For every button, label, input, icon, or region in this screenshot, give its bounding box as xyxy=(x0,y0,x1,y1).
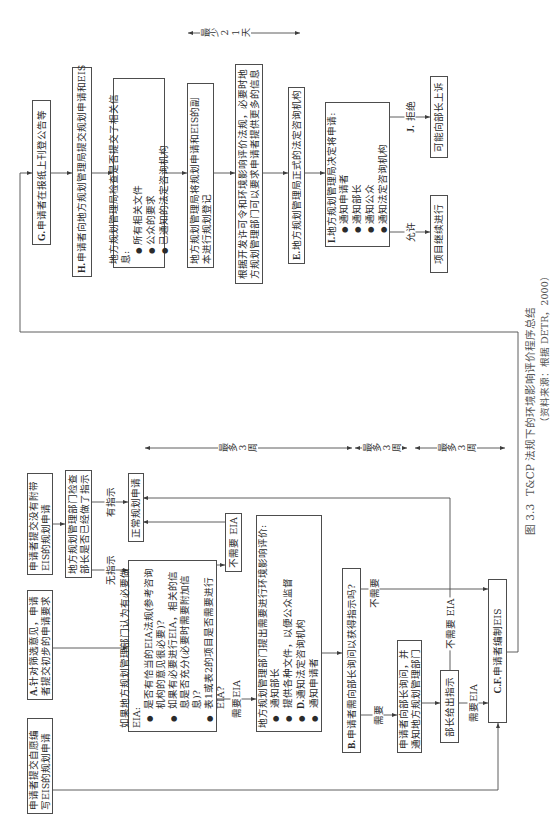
step-tag: A. xyxy=(28,687,39,696)
bullet-item: D.通知法定咨询机构 xyxy=(295,519,308,728)
node-h-submit-application: H.申请者向地方规划管理局提交规划申请和EIS xyxy=(72,67,92,277)
node-g-publish-notice: G.申请者在报纸上刊登公告等 xyxy=(32,100,51,245)
time-label-min-21-days: 最少21天 xyxy=(200,28,251,38)
node-lpa-screening: 如果地方规划管理部门认为有必要做EIA: 是否有恰当的EIA法规(参考咨询机构的… xyxy=(128,560,217,732)
bullet-icon xyxy=(158,245,171,254)
bullet-icon xyxy=(295,709,308,722)
bullet-item: 通知申请者 xyxy=(308,519,321,728)
edge-label-has-direction: 有指示 xyxy=(105,486,116,518)
bullet-text: 通知部长 xyxy=(269,668,280,708)
node-appeal: 可能向部长上诉 xyxy=(430,76,448,158)
bullet-text: 通知法定咨询机构 xyxy=(377,144,390,224)
step-tag: G. xyxy=(36,231,47,241)
node-intro: 如果地方规划管理部门认为有必要做EIA: xyxy=(119,564,143,728)
bullet-icon xyxy=(364,224,377,233)
node-intro: 地方规划管理部门提出需要进行环境影响评价: xyxy=(257,519,269,728)
bullet-text: 通知申请者 xyxy=(338,174,351,224)
node-text: 申请者向地方规划管理局提交规划申请和EIS xyxy=(76,65,87,262)
bullet-icon xyxy=(351,224,364,233)
node-minister-direction: 部长给出指示 xyxy=(440,670,459,743)
node-text: 申请者编制EIS xyxy=(492,608,503,675)
bullet-icon xyxy=(308,709,321,722)
node-text: 申请者需向部长询问以获得指示吗? xyxy=(346,584,357,739)
bullet-item: 通知部长 xyxy=(269,519,282,728)
node-check-info: 地方规划管理局检查是否提交了相关信息: 所有相关文件 公众的要求 已通知的法定咨… xyxy=(113,78,165,268)
bullet-icon xyxy=(269,709,282,722)
node-register: 地方规划管理局将规划申请和EIS的副本进行规划登记 xyxy=(187,83,214,268)
edge-label-refuse: J. 拒绝 xyxy=(405,100,416,133)
bullet-text: 通知法定咨询机构 xyxy=(295,619,306,699)
edge-label-need: 需要 xyxy=(373,704,384,726)
figure-title: T&CP 法规下的环境影响评价程序总结 xyxy=(524,307,536,496)
node-no-eia: 不需要 EIA xyxy=(225,513,242,572)
node-a-screening-request: A.针对筛选意见，申请者提交初步的申请要求 xyxy=(27,590,53,700)
step-tag: E. xyxy=(291,251,302,260)
node-voluntary-eis: 申请者提交自愿编写EIS的规划申请 xyxy=(27,718,53,814)
node-proceed: 项目继续进行 xyxy=(430,195,448,273)
bullet-text: 提供各种文件，以便公众监督 xyxy=(282,578,293,708)
bullet-text: 已通知的法定咨询机构 xyxy=(158,145,171,245)
edge-label-no-direction: 无指示 xyxy=(105,554,116,586)
bullet-text: 如果有必要进行EIA，相关的信息是否充分(必要时需要附加信息)? xyxy=(167,564,203,709)
bullet-text: 表1或表2的项目是否需要进行EIA? xyxy=(203,564,227,709)
step-tag: J. xyxy=(405,125,416,132)
node-text: 地方规划管理局将规划申请和EIS的副本进行规划登记 xyxy=(189,97,212,264)
bullet-icon xyxy=(143,709,167,722)
edge-label-minister-need-eia: 需要EIA xyxy=(468,683,479,723)
figure-source: （资料来源：根据 DETR，2000） xyxy=(537,271,551,427)
node-text: 针对筛选意见，申请者提交初步的申请要求 xyxy=(28,596,51,696)
step-tag: D. xyxy=(295,700,306,709)
bullet-icon xyxy=(338,224,351,233)
node-text: 申请者提交自愿编写EIS的规划申请 xyxy=(28,730,51,810)
node-text: 申请者提交没有附带EIS的规划申请 xyxy=(28,481,51,571)
bullet-icon xyxy=(167,709,203,722)
node-text: 正常规划申请 xyxy=(130,478,141,538)
node-no-eis-application: 申请者提交没有附带EIS的规划申请 xyxy=(27,473,53,575)
bullet-item: 通知法定咨询机构 xyxy=(377,106,390,243)
edge-label-not-need: 不需要 xyxy=(369,577,380,609)
node-more-info: 根据开发许可令和环境影响评价法规，必要时地方规划管理部门可以要求申请者提供更多的… xyxy=(235,64,263,284)
node-cf-prepare-eis: C.F.申请者编制EIS xyxy=(488,579,507,723)
node-text: 项目继续进行 xyxy=(433,204,444,264)
node-text: 地方规划管理部门检查部长是否已经做了指示 xyxy=(67,474,90,574)
bullet-text: 通知部长 xyxy=(351,184,364,224)
node-i-decision: I.地方规划管理局决定将申请: 通知申请者 通知部长 通知公众 通知法定咨询机构 xyxy=(325,102,390,247)
node-text: 部长给出指示 xyxy=(444,677,455,737)
node-applicant-asks: 申请者向部长询问，并通知地方规划管理部门 xyxy=(397,640,422,753)
bullet-item: 通知部长 xyxy=(351,106,364,243)
bullet-icon xyxy=(282,709,295,722)
bullet-text: 通知公众 xyxy=(364,184,377,224)
flowchart-figure: 申请者提交自愿编写EIS的规划申请 A.针对筛选意见，申请者提交初步的申请要求 … xyxy=(0,0,553,815)
bullet-item: 通知申请者 xyxy=(338,106,351,243)
node-eia-required: 地方规划管理部门提出需要进行环境影响评价: 通知部长 提供各种文件，以便公众监督… xyxy=(256,515,322,732)
bullet-item: 如果有必要进行EIA，相关的信息是否充分(必要时需要附加信息)? xyxy=(167,564,203,728)
node-text: 可能向部长上诉 xyxy=(433,82,444,152)
node-e-consult: E.地方规划管理局正式的法定咨询机构 xyxy=(288,87,305,264)
bullet-item: 公众的要求 xyxy=(145,82,158,264)
node-normal-application: 正常规划申请 xyxy=(128,473,144,542)
time-label-max-3-weeks-1: 最多3周 xyxy=(218,443,258,453)
bullet-item: 所有相关文件 xyxy=(132,82,145,264)
time-label-max-3-weeks-3: 最多3周 xyxy=(437,443,477,453)
node-text: 根据开发许可令和环境影响评价法规，必要时地方规划管理部门可以要求申请者提供更多的… xyxy=(237,69,260,279)
bullet-item: 已通知的法定咨询机构 xyxy=(158,82,171,264)
edge-label-need-eia: 需要EIA xyxy=(231,679,242,719)
bullet-item: 是否有恰当的EIA法规(参考咨询机构的意见很必要)? xyxy=(143,564,167,728)
bullet-text: 公众的要求 xyxy=(145,195,158,245)
arrow-voluntary-to-cf xyxy=(53,723,498,790)
node-text: 申请者在报纸上刊登公告等 xyxy=(36,110,47,230)
figure-number: 图 3.3 xyxy=(524,504,536,535)
node-b-ask-minister: B.申请者需向部长询问以获得指示吗? xyxy=(342,568,361,753)
bullet-item: 提供各种文件，以便公众监督 xyxy=(282,519,295,728)
step-tag: B. xyxy=(346,740,357,749)
figure-caption: 图 3.3T&CP 法规下的环境影响评价程序总结 xyxy=(522,307,537,535)
bullet-text: 通知申请者 xyxy=(308,658,319,708)
node-intro: 地方规划管理局检查是否提交了相关信息: xyxy=(108,82,132,264)
bullet-text: 是否有恰当的EIA法规(参考咨询机构的意见很必要)? xyxy=(143,564,167,709)
edge-label-allow: 允许 xyxy=(405,221,416,243)
node-text: 不需要 EIA xyxy=(228,517,239,568)
step-tag: C.F. xyxy=(492,677,503,694)
step-tag: I. xyxy=(326,237,337,243)
edge-label-minister-no-eia: 不需要 EIA xyxy=(445,598,456,651)
node-text: 申请者向部长询问，并通知地方规划管理部门 xyxy=(398,649,421,749)
